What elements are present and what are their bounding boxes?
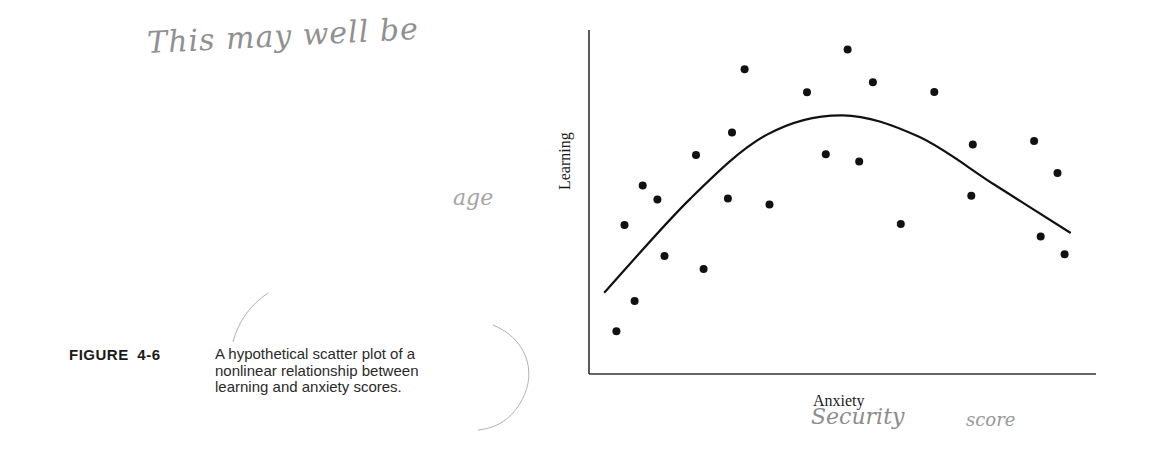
data-point — [897, 220, 905, 228]
handwritten-note-age: age — [453, 185, 493, 210]
data-point — [803, 88, 811, 96]
data-point — [639, 182, 647, 190]
data-point — [844, 46, 852, 54]
data-point — [700, 265, 708, 273]
data-point — [653, 196, 661, 204]
data-point — [1030, 137, 1038, 145]
data-point — [766, 200, 774, 208]
caption-line: nonlinear relationship between — [215, 363, 515, 380]
data-point — [967, 192, 975, 200]
data-point — [692, 151, 700, 159]
data-point — [822, 150, 830, 158]
handwritten-note-security: Security — [811, 404, 904, 429]
handwritten-note-score: score — [966, 409, 1015, 430]
scatter-plot — [0, 0, 1154, 458]
pencil-left-bracket — [233, 293, 268, 342]
data-point — [930, 88, 938, 96]
data-point — [661, 252, 669, 260]
data-point — [728, 129, 736, 137]
data-point — [1054, 169, 1062, 177]
fit-curve — [604, 115, 1070, 293]
data-point — [969, 141, 977, 149]
data-point — [621, 221, 629, 229]
caption-line: A hypothetical scatter plot of a — [215, 346, 515, 363]
data-point — [741, 65, 749, 73]
data-point — [1061, 250, 1069, 258]
figure-caption: A hypothetical scatter plot of a nonline… — [215, 346, 515, 396]
data-point — [631, 297, 639, 305]
data-point — [724, 195, 732, 203]
data-point — [869, 78, 877, 86]
data-point — [1037, 232, 1045, 240]
data-point — [855, 157, 863, 165]
y-axis-label: Learning — [556, 100, 574, 190]
figure-number: FIGURE 4-6 — [69, 346, 161, 363]
caption-line: learning and anxiety scores. — [215, 379, 515, 396]
data-point — [612, 327, 620, 335]
data-points — [612, 46, 1068, 336]
